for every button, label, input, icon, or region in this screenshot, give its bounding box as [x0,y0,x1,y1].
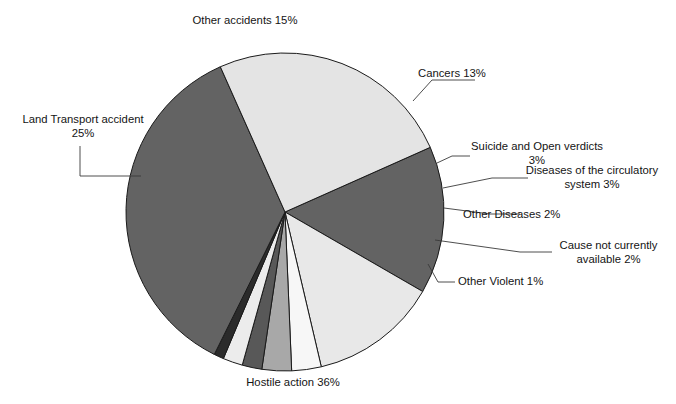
pie-slice-group: Other accidents 15%Cancers 13%Suicide an… [126,53,444,371]
leader-line-cancers [413,80,475,101]
slice-label-cause-not-available: Cause not currently available 2% [541,239,676,266]
chart-page: Other accidents 15%Cancers 13%Suicide an… [0,0,676,404]
slice-label-suicide-open-verdicts: Suicide and Open verdicts 3% [443,140,631,167]
slice-label-other-diseases: Other Diseases 2% [463,208,663,222]
slice-label-other-accidents: Other accidents 15% [120,14,370,28]
slice-label-circulatory: Diseases of the circulatory system 3% [508,164,676,191]
slice-label-cancers: Cancers 13% [418,67,598,81]
slice-label-other-violent: Other Violent 1% [458,275,658,289]
pie-chart: Other accidents 15%Cancers 13%Suicide an… [0,0,676,404]
slice-label-hostile-action: Hostile action 36% [178,376,408,390]
leader-line-cause-not-available [435,240,552,252]
slice-label-land-transport: Land Transport accident 25% [0,113,166,140]
